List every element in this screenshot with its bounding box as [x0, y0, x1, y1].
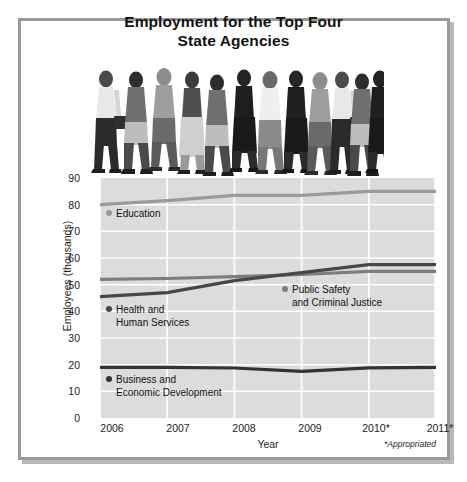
series-label-public-safety-line-2: and Criminal Justice — [282, 297, 382, 310]
series-label-health-line-2: Human Services — [106, 317, 189, 330]
series-label-business-economic-development: Business and Economic Development — [106, 374, 222, 399]
series-marker-business-icon — [106, 376, 112, 382]
figure-title-line-2: State Agencies — [0, 31, 467, 50]
series-label-health-line-1: Health and — [116, 304, 164, 315]
series-marker-health-icon — [106, 306, 112, 312]
x-tick-2008: 2008 — [232, 422, 255, 434]
x-tick-2010: 2010* — [362, 422, 389, 434]
x-tick-2007: 2007 — [166, 422, 189, 434]
horizontal-gridlines — [100, 205, 436, 392]
x-tick-2009: 2009 — [298, 422, 321, 434]
x-tick-2006: 2006 — [100, 422, 123, 434]
figure-page: Employment for the Top Four State Agenci… — [0, 0, 467, 482]
figure-title-line-1: Employment for the Top Four — [124, 13, 343, 30]
series-label-business-line-2: Economic Development — [106, 387, 222, 400]
y-tick-70: 70 — [54, 225, 80, 237]
series-label-health-human-services: Health and Human Services — [106, 304, 189, 329]
series-label-business-line-1: Business and — [116, 374, 176, 385]
figure-title: Employment for the Top Four State Agenci… — [0, 12, 467, 50]
y-tick-90: 90 — [54, 172, 80, 184]
y-tick-80: 80 — [54, 199, 80, 211]
chart-footnote: *Appropriated — [384, 439, 436, 449]
y-tick-0: 0 — [54, 412, 80, 424]
people-walking-in-line-icon — [84, 66, 384, 176]
series-line-health-human-services — [100, 265, 436, 297]
y-tick-10: 10 — [54, 385, 80, 397]
y-axis-ticks: 90 80 70 60 50 40 30 20 10 0 — [54, 178, 80, 418]
series-line-education — [100, 191, 436, 204]
series-line-business-economic-development — [100, 367, 436, 371]
line-chart: Employees (thousands) 90 80 70 60 50 40 … — [44, 178, 436, 450]
y-tick-60: 60 — [54, 252, 80, 264]
series-marker-public-safety-icon — [282, 286, 288, 292]
y-tick-30: 30 — [54, 332, 80, 344]
x-tick-2011: 2011* — [427, 422, 454, 434]
series-label-education: Education — [106, 208, 160, 221]
series-label-public-safety-line-1: Public Safety — [292, 284, 350, 295]
y-tick-40: 40 — [54, 305, 80, 317]
series-marker-education-icon — [106, 210, 112, 216]
series-label-education-line-1: Education — [116, 208, 160, 219]
plot-area: Education Health and Human Services Publ… — [100, 178, 436, 418]
y-tick-50: 50 — [54, 279, 80, 291]
series-label-public-safety: Public Safety and Criminal Justice — [282, 284, 382, 309]
y-tick-20: 20 — [54, 359, 80, 371]
